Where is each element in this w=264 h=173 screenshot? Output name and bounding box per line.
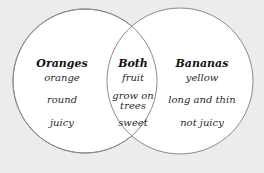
- both-item-fruit: fruit: [122, 72, 144, 83]
- oranges-item-juicy: juicy: [50, 117, 74, 128]
- both-item-trees: trees: [120, 100, 146, 111]
- bananas-item-yellow: yellow: [186, 72, 219, 83]
- oranges-item-round: round: [47, 94, 77, 105]
- oranges-item-orange: orange: [44, 72, 80, 83]
- bananas-item-not-juicy: not juicy: [180, 117, 224, 128]
- bananas-item-long-and-thin: long and thin: [168, 94, 235, 105]
- both-title: Both: [118, 58, 148, 69]
- both-item-sweet: sweet: [118, 117, 148, 128]
- oranges-title: Oranges: [36, 58, 87, 69]
- venn-diagram: [0, 0, 264, 173]
- bananas-title: Bananas: [176, 58, 229, 69]
